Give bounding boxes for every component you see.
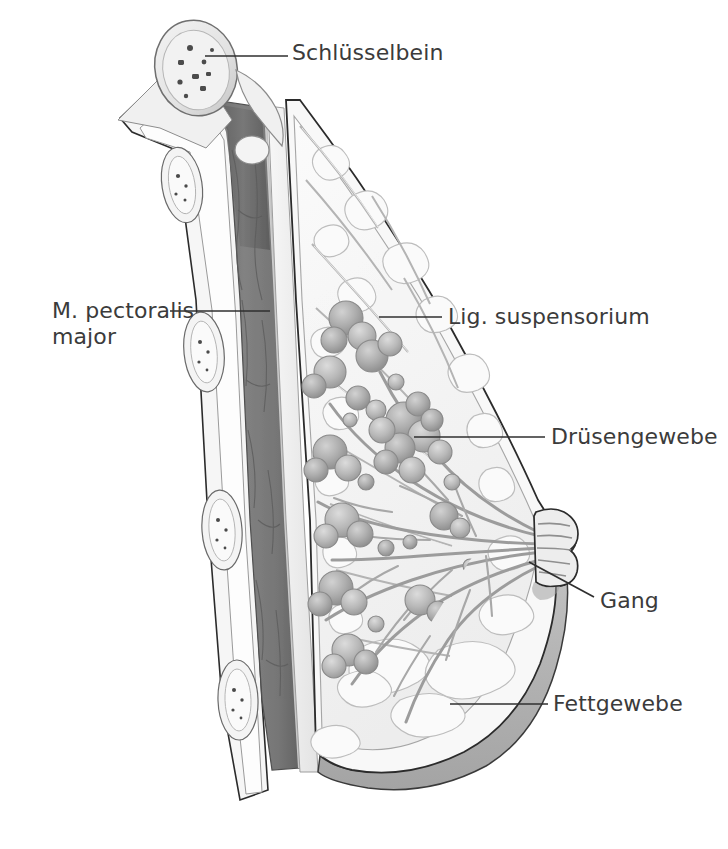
label-schluesselbein: Schlüsselbein — [292, 40, 444, 66]
subclavian-vessel — [235, 136, 269, 164]
label-gang: Gang — [600, 588, 659, 614]
label-fettgewebe: Fettgewebe — [553, 691, 683, 717]
nipple — [532, 509, 578, 600]
label-m-pectoralis-major: M. pectoralis major — [52, 298, 194, 350]
label-druesengewebe: Drüsengewebe — [551, 424, 718, 450]
anatomy-figure: Schlüsselbein M. pectoralis major Lig. s… — [0, 0, 728, 849]
label-lig-suspensorium: Lig. suspensorium — [448, 304, 650, 330]
clavicle-bone — [118, 13, 283, 164]
